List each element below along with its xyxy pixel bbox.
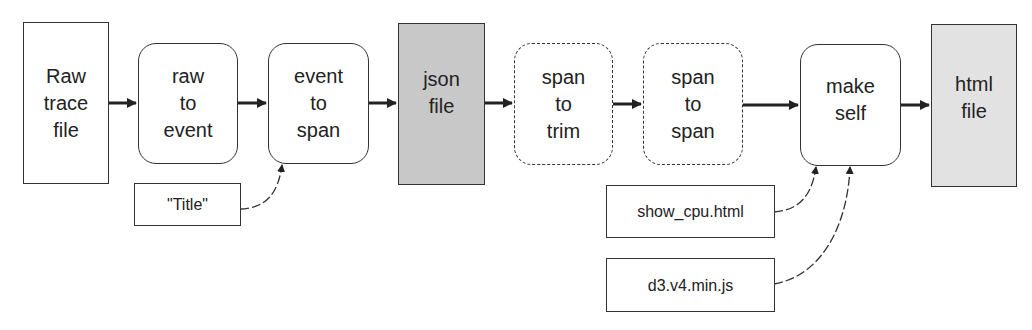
node-html-file: html file [931,24,1017,187]
node-span-to-span: span to span [643,43,743,165]
input-d3-v4-min-js: d3.v4.min.js [606,258,775,312]
node-json-file: json file [398,23,485,185]
node-raw-to-event: raw to event [138,43,238,164]
arrow-title-to-eventtospan [240,165,282,209]
input-show-cpu-html: show_cpu.html [606,185,775,238]
node-event-to-span: event to span [268,43,369,164]
arrow-showcpu-to-makeself [774,167,816,212]
node-raw-trace-file: Raw trace file [23,22,109,184]
input-title: "Title" [134,183,241,226]
node-make-self: make self [800,44,901,166]
node-span-to-trim: span to trim [514,43,613,165]
